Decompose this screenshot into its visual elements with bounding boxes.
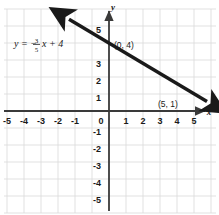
equation-tail: x + 4	[41, 38, 63, 49]
y-tick-2: 2	[96, 76, 101, 86]
x-tick--1: -1	[71, 116, 79, 126]
y-tick--2: -2	[93, 144, 101, 154]
x-tick-3: 3	[157, 116, 162, 126]
x-tick-5: 5	[191, 116, 196, 126]
y-tick--1: -1	[93, 127, 101, 137]
x-axis-label: x	[206, 107, 212, 117]
point-label-5-1: (5, 1)	[158, 99, 178, 109]
y-tick--3: -3	[93, 161, 101, 171]
x-tick-1: 1	[123, 116, 128, 126]
equation-denominator: 5	[35, 46, 39, 54]
x-tick--5: -5	[3, 116, 11, 126]
equation-lead: y = −	[13, 38, 37, 49]
graph-page: -5 -4 -3 -2 -1 0 1 2 3 4 5 5 3 2 1 -1 -2…	[0, 0, 219, 215]
point-label-0-4: (0, 4)	[114, 40, 134, 50]
coordinate-plane: -5 -4 -3 -2 -1 0 1 2 3 4 5 5 3 2 1 -1 -2…	[0, 0, 219, 215]
x-tick-4: 4	[174, 116, 179, 126]
y-tick-3: 3	[96, 59, 101, 69]
y-tick-1: 1	[96, 93, 101, 103]
x-tick-0: 0	[98, 116, 103, 126]
y-tick--4: -4	[93, 178, 101, 188]
x-tick--3: -3	[37, 116, 45, 126]
x-tick-2: 2	[140, 116, 145, 126]
y-tick--5: -5	[93, 195, 101, 205]
x-tick--4: -4	[20, 116, 28, 126]
equation-numerator: 3	[35, 37, 39, 45]
x-tick--2: -2	[54, 116, 62, 126]
y-tick-5: 5	[96, 25, 101, 35]
